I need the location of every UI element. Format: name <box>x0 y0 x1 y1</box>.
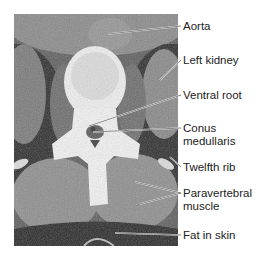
label-left-kidney: Left kidney <box>183 54 239 67</box>
label-twelfth-rib: Twelfth rib <box>183 161 235 174</box>
label-fat-in-skin: Fat in skin <box>183 229 235 242</box>
label-conus-medullaris: Conus medullaris <box>183 122 235 148</box>
label-aorta: Aorta <box>183 20 211 33</box>
label-ventral-root: Ventral root <box>183 89 242 102</box>
label-paravertebral-muscle: Paravertebral muscle <box>183 187 252 213</box>
